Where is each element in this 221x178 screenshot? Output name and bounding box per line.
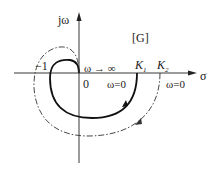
inner-direction-arrow-icon [122,100,128,107]
origin-label: 0 [83,78,89,90]
k1-label: K1 [135,59,147,74]
outer-direction-arrow-icon [135,118,142,125]
omega-infinity-label: ω → ∞ [84,63,116,74]
k2-label: K2 [157,59,169,74]
nyquist-diagram: jω σ 0 [G] −1 K1 K2 ω → ∞ ω=0 ω=0 [0,0,221,178]
real-axis-arrow-icon [188,71,197,76]
imag-axis-arrow-icon [77,12,82,21]
omega-zero-inner-label: ω=0 [107,79,126,90]
omega-zero-outer-label: ω=0 [166,79,185,90]
minus-one-label: −1 [35,60,48,72]
real-axis-label: σ [200,70,206,82]
region-label: [G] [132,32,149,44]
imag-axis-label: jω [58,14,69,26]
